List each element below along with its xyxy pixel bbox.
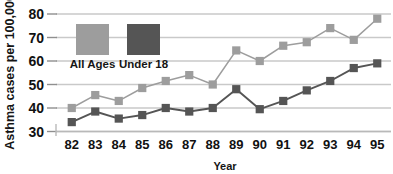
data-point-marker	[256, 105, 264, 113]
y-tick-label: 70	[28, 30, 44, 46]
x-tick-label: 83	[88, 137, 102, 152]
y-tick-label: 40	[28, 100, 44, 116]
x-tick-label: 82	[65, 137, 79, 152]
data-point-marker	[326, 77, 334, 85]
data-point-marker	[350, 36, 358, 44]
data-point-marker	[279, 97, 287, 105]
x-tick-label: 94	[347, 137, 362, 152]
data-point-marker	[232, 46, 240, 54]
data-point-marker	[68, 104, 76, 112]
data-point-marker	[115, 114, 123, 122]
x-tick-label: 92	[300, 137, 314, 152]
data-point-marker	[350, 64, 358, 72]
x-axis-ticks: 8283848586878889909192939495	[65, 137, 385, 152]
data-point-marker	[373, 59, 381, 67]
x-tick-label: 93	[323, 137, 337, 152]
x-tick-label: 89	[229, 137, 243, 152]
data-series-layer	[68, 15, 382, 127]
data-point-marker	[185, 71, 193, 79]
y-tick-label: 30	[28, 124, 44, 140]
data-point-marker	[115, 97, 123, 105]
data-point-marker	[279, 42, 287, 50]
data-point-marker	[256, 57, 264, 65]
data-point-marker	[326, 24, 334, 32]
x-tick-label: 85	[135, 137, 149, 152]
asthma-cases-line-chart: Asthma cases per 100,000 304050607080 Al…	[0, 0, 393, 174]
data-point-marker	[303, 86, 311, 94]
data-point-marker	[185, 107, 193, 115]
y-tick-label: 80	[28, 6, 44, 22]
data-point-marker	[138, 111, 146, 119]
y-axis-ticks: 304050607080	[28, 6, 57, 140]
x-tick-label: 95	[370, 137, 384, 152]
data-point-marker	[91, 107, 99, 115]
chart-legend: All AgesUnder 18	[70, 24, 169, 70]
data-point-marker	[232, 85, 240, 93]
y-tick-label: 60	[28, 53, 44, 69]
legend-swatch	[127, 24, 160, 55]
x-tick-label: 91	[276, 137, 290, 152]
data-point-marker	[162, 104, 170, 112]
x-tick-label: 86	[159, 137, 173, 152]
chart-canvas: Asthma cases per 100,000 304050607080 Al…	[0, 0, 393, 174]
x-tick-label: 84	[112, 137, 127, 152]
data-point-marker	[68, 118, 76, 126]
legend-label: All Ages	[70, 58, 116, 70]
data-point-marker	[303, 38, 311, 46]
x-tick-label: 87	[182, 137, 196, 152]
legend-swatch	[76, 24, 109, 55]
x-axis-title-text: Year	[213, 160, 237, 172]
data-point-marker	[209, 104, 217, 112]
x-tick-label: 90	[253, 137, 267, 152]
data-point-marker	[162, 77, 170, 85]
y-axis-title-text: Asthma cases per 100,000	[3, 0, 17, 150]
data-point-marker	[138, 84, 146, 92]
data-point-marker	[373, 15, 381, 23]
y-axis-title: Asthma cases per 100,000	[3, 0, 17, 150]
data-point-marker	[209, 80, 217, 88]
x-tick-label: 88	[206, 137, 220, 152]
data-point-marker	[91, 91, 99, 99]
legend-label: Under 18	[119, 58, 169, 70]
y-tick-label: 50	[28, 77, 44, 93]
series-line	[72, 63, 378, 122]
